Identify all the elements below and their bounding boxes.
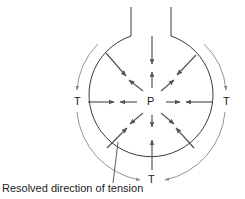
label-pressure: P	[147, 96, 154, 107]
label-tension-right: T	[223, 96, 230, 107]
bubble-tension-diagram	[0, 0, 245, 199]
vessel-outline	[89, 7, 213, 157]
caption: Resolved direction of tension	[2, 182, 143, 194]
label-tension-bottom: T	[148, 174, 155, 185]
caption-leader	[113, 142, 118, 183]
label-tension-left: T	[74, 96, 81, 107]
